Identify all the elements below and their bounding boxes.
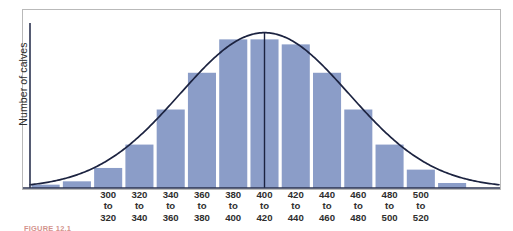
x-tick-label: 300to320: [91, 189, 125, 223]
x-tick-label-line: 400: [248, 189, 282, 200]
histogram-bar: [188, 73, 216, 188]
x-tick-label: 500to520: [404, 189, 438, 223]
histogram-bar: [63, 181, 91, 188]
x-tick-label-line: 380: [185, 212, 219, 223]
x-tick-label-line: 520: [404, 212, 438, 223]
x-tick-label-line: 340: [154, 189, 188, 200]
x-tick-label-line: to: [91, 200, 125, 211]
x-tick-label: 480to500: [373, 189, 407, 223]
histogram-bar: [313, 73, 341, 188]
x-tick-label-line: to: [185, 200, 219, 211]
histogram-bar: [376, 145, 404, 188]
x-axis-tick-labels: 300to320320to340340to360360to380380to400…: [22, 189, 501, 229]
x-tick-label-line: 440: [310, 189, 344, 200]
x-tick-label: 340to360: [154, 189, 188, 223]
x-tick-label-line: 360: [154, 212, 188, 223]
x-tick-label-line: 480: [341, 212, 375, 223]
histogram-bar: [407, 170, 435, 188]
x-tick-label: 420to440: [279, 189, 313, 223]
x-tick-label-line: 400: [216, 212, 250, 223]
x-tick-label-line: 300: [91, 189, 125, 200]
x-tick-label-line: 500: [373, 212, 407, 223]
x-tick-label: 380to400: [216, 189, 250, 223]
x-tick-label-line: 420: [279, 189, 313, 200]
histogram-bar: [219, 39, 247, 188]
figure-caption: FIGURE 12.1: [24, 225, 494, 231]
x-tick-label: 460to480: [341, 189, 375, 223]
x-tick-label-line: 340: [122, 212, 156, 223]
x-tick-label-line: to: [279, 200, 313, 211]
histogram-bar: [125, 145, 153, 188]
x-tick-label-line: 460: [310, 212, 344, 223]
x-tick-label-line: 380: [216, 189, 250, 200]
histogram-bar: [344, 110, 372, 188]
x-tick-label-line: 320: [91, 212, 125, 223]
x-tick-label: 400to420: [248, 189, 282, 223]
x-tick-label-line: to: [216, 200, 250, 211]
x-tick-label-line: to: [122, 200, 156, 211]
x-tick-label-line: to: [341, 200, 375, 211]
x-tick-label-line: 420: [248, 212, 282, 223]
x-tick-label-line: to: [248, 200, 282, 211]
x-tick-label-line: 480: [373, 189, 407, 200]
x-tick-label-line: 500: [404, 189, 438, 200]
x-tick-label-line: to: [154, 200, 188, 211]
histogram-bar: [94, 168, 122, 188]
histogram-bar: [282, 44, 310, 188]
x-tick-label: 440to460: [310, 189, 344, 223]
x-tick-label-line: 440: [279, 212, 313, 223]
x-tick-label-line: to: [310, 200, 344, 211]
histogram-bar: [157, 110, 185, 188]
x-tick-label-line: to: [373, 200, 407, 211]
x-tick-label-line: 360: [185, 189, 219, 200]
x-tick-label-line: to: [404, 200, 438, 211]
x-tick-label-line: 460: [341, 189, 375, 200]
x-tick-label: 320to340: [122, 189, 156, 223]
x-tick-label-line: 320: [122, 189, 156, 200]
figure-root: Number of calves 300to320320to340340to36…: [0, 0, 513, 231]
histogram-chart: [22, 9, 501, 190]
x-tick-label: 360to380: [185, 189, 219, 223]
